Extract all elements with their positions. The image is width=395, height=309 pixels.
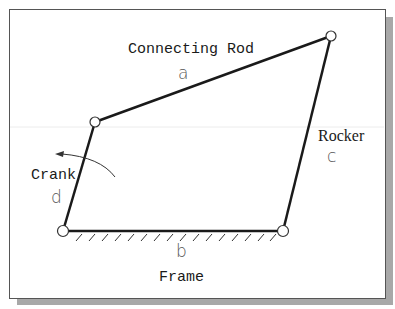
crank-letter: d	[51, 187, 62, 207]
connecting-rod-letter: a	[178, 63, 188, 83]
frame-letter: b	[176, 241, 187, 261]
ground-hatching	[76, 234, 276, 241]
connecting-rod-label: Connecting Rod	[128, 41, 254, 58]
frame-crank-pivot	[58, 226, 69, 237]
rotation-arrowhead-icon	[55, 151, 64, 157]
frame-rocker-pivot	[278, 226, 289, 237]
frame-label: Frame	[159, 269, 204, 286]
coupler-rocker-joint	[326, 31, 336, 41]
four-bar-linkage-diagram: Connecting Rod a Rocker c Crank d b Fram…	[0, 0, 395, 309]
rocker-label: Rocker	[318, 127, 365, 144]
crank-label: Crank	[31, 167, 76, 184]
rocker-letter: c	[327, 146, 336, 166]
crank-coupler-joint	[90, 117, 100, 127]
diagram-canvas: Connecting Rod a Rocker c Crank d b Fram…	[0, 0, 395, 309]
